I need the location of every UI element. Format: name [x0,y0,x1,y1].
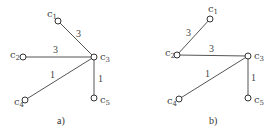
node-c1 [207,16,213,22]
node-label-c3: c3 [100,51,110,64]
node-label-c5: c5 [100,94,110,107]
node-label-c2: c2 [10,49,20,62]
node-c5 [91,95,97,101]
edge-c1-c2 [177,19,210,55]
node-c3 [91,54,97,60]
edge-weight: 3 [53,44,58,55]
node-label-c4: c4 [167,95,178,108]
node-label-c5: c5 [254,94,264,107]
edge-weight: 1 [98,73,103,84]
edge-weight: 3 [209,43,214,54]
node-c3 [245,53,251,59]
caption-b: b) [209,115,217,127]
node-c5 [245,95,251,101]
node-label-c3: c3 [254,50,264,63]
caption-a: a) [57,115,65,127]
graph-a: 3 3 1 1 c1 c2 c3 c4 c5 a) [10,8,110,127]
edge-c1-c3 [58,21,94,57]
edge-weight: 3 [186,27,191,38]
edge-weight: 1 [50,69,55,80]
edge-weight: 1 [251,72,256,83]
graph-b: 3 3 1 1 c1 c2 c3 c4 c5 b) [165,3,264,127]
node-label-c1: c1 [47,8,57,21]
node-label-c1: c1 [208,3,218,16]
edge-weight: 3 [76,28,81,39]
edge-c4-c3 [25,57,94,100]
edge-c4-c3 [179,56,248,99]
node-c2 [20,54,26,60]
edge-weight: 1 [205,68,210,79]
node-label-c2: c2 [165,47,175,60]
edge-c2-c3 [177,55,248,56]
graph-diagram: 3 3 1 1 c1 c2 c3 c4 c5 a) 3 3 1 1 c1 c2 … [0,0,274,135]
